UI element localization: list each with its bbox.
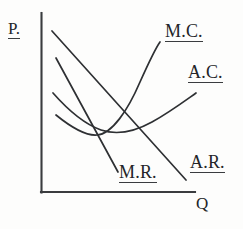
y-axis-label: P. [8, 20, 20, 39]
diagram-canvas: P. Q M.C. A.C. A.R. M.R. [0, 0, 243, 229]
curve-marginal-revenue [56, 58, 118, 172]
curve-label-average-cost: A.C. [188, 63, 223, 83]
curve-label-average-revenue: A.R. [190, 153, 225, 173]
curve-label-marginal-cost: M.C. [165, 22, 203, 42]
x-axis-label: Q [196, 195, 208, 212]
curve-marginal-cost [56, 42, 160, 135]
curve-label-marginal-revenue: M.R. [119, 163, 157, 183]
curve-average-revenue [52, 31, 186, 180]
